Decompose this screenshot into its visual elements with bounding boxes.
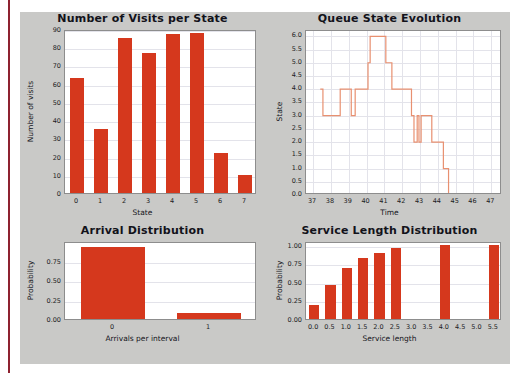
x-tick-label: 1 — [98, 197, 102, 205]
bar — [94, 129, 108, 193]
y-tick-label: 90 — [20, 26, 61, 34]
chart-visits-plot-area — [64, 30, 256, 194]
chart-queue: Queue State Evolution State 0.00.51.01.5… — [269, 12, 510, 222]
chart-service: Service Length Distribution Probability … — [269, 224, 510, 364]
bar — [214, 153, 228, 193]
x-tick-label: 4.0 — [439, 323, 449, 331]
y-tick-label: 0.25 — [20, 297, 61, 305]
y-tick-label: 1.00 — [269, 242, 302, 250]
y-tick-label: 0.50 — [269, 279, 302, 287]
gridline-h — [65, 86, 255, 87]
x-tick-label: 1.5 — [357, 323, 367, 331]
bar — [166, 34, 180, 193]
bar — [118, 38, 132, 193]
x-tick-label: 1 — [206, 323, 210, 331]
y-tick-label: 0 — [20, 190, 61, 198]
bar — [238, 175, 252, 193]
x-tick-label: 3.0 — [406, 323, 416, 331]
gridline-h — [306, 247, 500, 248]
y-tick-label: 0.5 — [269, 177, 302, 185]
x-tick-label: 2.5 — [390, 323, 400, 331]
chart-service-xlabel: Service length — [269, 334, 510, 343]
x-tick-label: 2 — [122, 197, 126, 205]
gridline-h — [65, 49, 255, 50]
bar — [142, 53, 156, 193]
y-tick-label: 3.5 — [269, 97, 302, 105]
x-tick-label: 38 — [326, 197, 334, 205]
y-tick-label: 0.25 — [269, 297, 302, 305]
chart-queue-xlabel: Time — [269, 208, 510, 217]
y-tick-label: 0.50 — [20, 277, 61, 285]
y-tick-label: 4.5 — [269, 71, 302, 79]
chart-visits: Number of Visits per State Number of vis… — [20, 12, 265, 222]
x-tick-label: 0 — [110, 323, 114, 331]
y-tick-label: 40 — [20, 117, 61, 125]
chart-service-title: Service Length Distribution — [269, 224, 510, 237]
y-tick-label: 0.00 — [20, 316, 61, 324]
gridline-h — [65, 104, 255, 105]
gridline-h — [65, 67, 255, 68]
x-tick-label: 5 — [194, 197, 198, 205]
x-tick-label: 3 — [146, 197, 150, 205]
y-tick-label: 5.5 — [269, 45, 302, 53]
x-tick-label: 4 — [170, 197, 174, 205]
x-tick-label: 45 — [451, 197, 459, 205]
charts-panel: Number of Visits per State Number of vis… — [20, 12, 510, 364]
bar — [358, 258, 368, 319]
bar — [309, 305, 319, 319]
bar — [391, 248, 401, 319]
x-tick-label: 42 — [397, 197, 405, 205]
y-tick-label: 1.5 — [269, 150, 302, 158]
x-tick-label: 5.0 — [471, 323, 481, 331]
y-tick-label: 2.0 — [269, 137, 302, 145]
x-tick-label: 40 — [361, 197, 369, 205]
y-tick-label: 4.0 — [269, 84, 302, 92]
chart-arrival-title: Arrival Distribution — [20, 224, 265, 237]
chart-service-plot-area — [305, 242, 501, 320]
y-tick-label: 20 — [20, 154, 61, 162]
y-tick-label: 10 — [20, 172, 61, 180]
y-tick-label: 1.0 — [269, 164, 302, 172]
bar — [342, 268, 352, 319]
chart-visits-ylabel: Number of visits — [26, 30, 35, 194]
bar — [81, 247, 144, 319]
gridline-h — [306, 265, 500, 266]
y-tick-label: 30 — [20, 135, 61, 143]
x-tick-label: 46 — [468, 197, 476, 205]
x-tick-label: 0 — [74, 197, 78, 205]
page-margin-rule — [8, 0, 10, 373]
x-tick-label: 2.0 — [373, 323, 383, 331]
screenshot-root: Number of Visits per State Number of vis… — [0, 0, 523, 373]
y-tick-label: 0.75 — [20, 258, 61, 266]
x-tick-label: 37 — [308, 197, 316, 205]
bar — [177, 313, 240, 319]
x-tick-label: 41 — [379, 197, 387, 205]
x-tick-label: 0.0 — [308, 323, 318, 331]
x-tick-label: 3.5 — [422, 323, 432, 331]
bar — [374, 253, 384, 319]
chart-visits-title: Number of Visits per State — [20, 12, 265, 25]
queue-state-line — [306, 31, 501, 194]
bar — [489, 245, 499, 319]
y-tick-label: 0.75 — [269, 260, 302, 268]
gridline-h — [65, 31, 255, 32]
chart-visits-xlabel: State — [20, 208, 265, 217]
bar — [70, 78, 84, 193]
x-tick-label: 44 — [433, 197, 441, 205]
x-tick-label: 4.5 — [455, 323, 465, 331]
y-tick-label: 0.0 — [269, 190, 302, 198]
chart-arrival: Arrival Distribution Probability 0.000.2… — [20, 224, 265, 364]
chart-arrival-xlabel: Arrivals per interval — [20, 334, 265, 343]
x-tick-label: 1.0 — [341, 323, 351, 331]
y-tick-label: 6.0 — [269, 31, 302, 39]
y-tick-label: 60 — [20, 81, 61, 89]
y-tick-label: 80 — [20, 44, 61, 52]
x-tick-label: 43 — [415, 197, 423, 205]
y-tick-label: 2.5 — [269, 124, 302, 132]
y-tick-label: 0.00 — [269, 316, 302, 324]
x-tick-label: 47 — [486, 197, 494, 205]
y-tick-label: 3.0 — [269, 111, 302, 119]
x-tick-label: 7 — [242, 197, 246, 205]
chart-queue-plot-area — [305, 30, 501, 194]
y-tick-label: 5.0 — [269, 58, 302, 66]
